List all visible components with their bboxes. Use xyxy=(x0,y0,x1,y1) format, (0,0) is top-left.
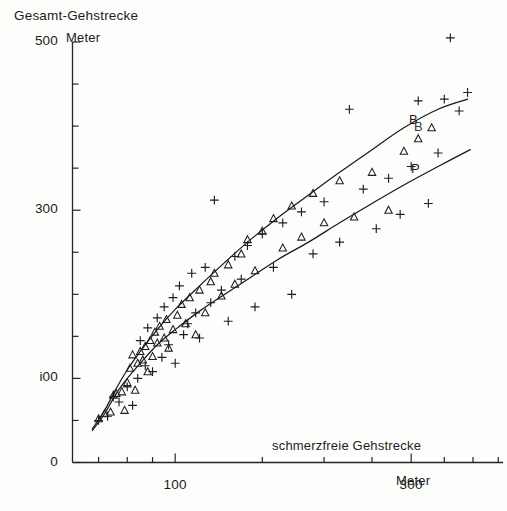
data-point-plus xyxy=(424,199,433,208)
data-point-plus xyxy=(440,95,449,104)
data-point-triangle xyxy=(202,309,209,316)
data-point-plus xyxy=(171,359,180,368)
data-point-plus xyxy=(128,401,137,410)
data-point-plus xyxy=(153,313,162,322)
data-point-triangle xyxy=(298,233,305,240)
x-tick-label: 300 xyxy=(381,477,441,492)
data-point-triangle xyxy=(415,135,422,142)
data-point-plus xyxy=(115,398,124,407)
data-point-triangle xyxy=(196,286,203,293)
x-axis-ticks xyxy=(99,454,499,463)
data-point-plus xyxy=(345,105,354,114)
data-point-triangle xyxy=(146,337,153,344)
data-point-triangle xyxy=(174,311,181,318)
data-point-triangle xyxy=(368,168,375,175)
data-point-plus xyxy=(287,290,296,299)
data-point-plus xyxy=(359,185,368,194)
data-point-triangle xyxy=(149,353,156,360)
data-point-plus xyxy=(297,207,306,216)
data-point-plus xyxy=(455,107,464,116)
data-point-plus xyxy=(384,174,393,183)
data-point-plus xyxy=(187,269,196,278)
data-point-plus xyxy=(372,224,381,233)
y-axis-ticks xyxy=(73,42,81,463)
data-point-plus xyxy=(396,210,405,219)
y-tick-label: 300 xyxy=(14,201,58,216)
data-point-plus xyxy=(179,330,188,339)
x-tick-label: 100 xyxy=(145,477,205,492)
data-point-plus xyxy=(175,281,184,290)
data-point-triangle xyxy=(126,364,133,371)
data-point-plus xyxy=(251,303,260,312)
data-point-plus xyxy=(309,250,318,259)
chart-title: Gesamt-Gehstrecke xyxy=(14,8,138,23)
curve-label-lower: P xyxy=(411,161,420,176)
y-axis-unit-label: Meter xyxy=(66,30,100,45)
y-tick-label: 0 xyxy=(14,454,58,469)
data-point-triangle xyxy=(350,213,357,220)
data-point-plus xyxy=(201,263,210,272)
data-point-triangle xyxy=(192,331,199,338)
data-point-plus xyxy=(258,229,267,238)
data-point-triangle xyxy=(279,244,286,251)
data-point-triangle xyxy=(129,351,136,358)
y-tick-label: i00 xyxy=(14,369,58,384)
data-point-plus xyxy=(136,336,145,345)
data-point-plus xyxy=(463,88,472,97)
fitted-curves xyxy=(92,99,470,430)
data-point-plus xyxy=(160,303,169,312)
y-tick-label: 500 xyxy=(14,33,58,48)
x-axis-title: schmerzfreie Gehstrecke xyxy=(272,438,421,453)
data-point-plus xyxy=(434,149,443,158)
data-point-plus xyxy=(278,218,287,227)
data-points xyxy=(94,33,472,424)
data-point-triangle xyxy=(400,147,407,154)
data-point-triangle xyxy=(207,278,214,285)
fitted-curve-p xyxy=(92,150,470,431)
curve-label-upper-duplicate: B xyxy=(414,119,423,134)
figure-container: Gesamt-Gehstrecke Meter schmerzfreie Geh… xyxy=(0,0,507,511)
data-point-plus xyxy=(414,96,423,105)
data-point-plus xyxy=(164,340,173,349)
axis-lines xyxy=(73,42,504,463)
data-point-plus xyxy=(217,286,226,295)
data-point-triangle xyxy=(385,206,392,213)
data-point-triangle xyxy=(231,280,238,287)
data-point-plus xyxy=(224,317,233,326)
data-point-triangle xyxy=(336,177,343,184)
data-point-plus xyxy=(230,252,239,261)
data-point-triangle xyxy=(131,386,138,393)
data-point-plus xyxy=(158,353,167,362)
data-point-triangle xyxy=(428,124,435,131)
data-point-plus xyxy=(446,33,455,42)
fitted-curve-b xyxy=(92,99,467,429)
chart-canvas xyxy=(0,0,507,511)
data-point-triangle xyxy=(160,334,167,341)
data-point-plus xyxy=(143,324,152,333)
data-point-plus xyxy=(335,238,344,247)
data-point-plus xyxy=(169,293,178,302)
data-point-plus xyxy=(195,334,204,343)
data-point-plus xyxy=(320,197,329,206)
data-point-plus xyxy=(133,374,142,383)
data-point-triangle xyxy=(121,406,128,413)
data-point-triangle xyxy=(251,267,258,274)
data-point-triangle xyxy=(238,250,245,257)
data-point-plus xyxy=(210,196,219,205)
data-point-triangle xyxy=(320,219,327,226)
